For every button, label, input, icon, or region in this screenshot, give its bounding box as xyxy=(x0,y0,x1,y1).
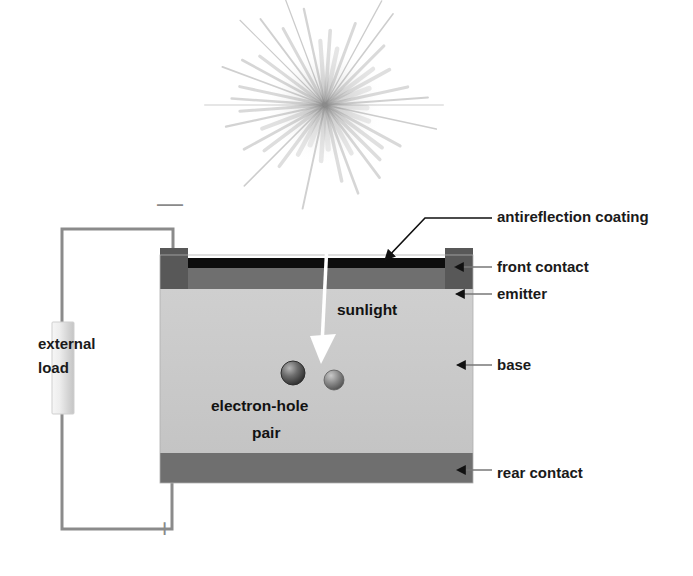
layer-antireflection-coating xyxy=(183,258,451,268)
terminal-negative-sign: — xyxy=(157,188,183,218)
layer-rear-contact xyxy=(160,453,473,483)
label-pair: pair xyxy=(252,424,280,441)
solar-cell-diagram: antireflection coating front contact emi… xyxy=(0,0,693,576)
label-rear-contact: rear contact xyxy=(497,464,583,481)
front-contact-left xyxy=(160,248,188,289)
label-external-load-line1: external xyxy=(38,335,96,352)
hole-sphere xyxy=(324,370,344,390)
wire-top xyxy=(62,229,173,324)
label-sunlight: sunlight xyxy=(337,301,397,318)
label-antireflection-coating: antireflection coating xyxy=(497,208,649,225)
layer-base xyxy=(160,289,473,453)
sunlight-starburst xyxy=(205,0,443,209)
terminal-positive-sign: + xyxy=(157,513,172,543)
label-external-load-line2: load xyxy=(38,359,69,376)
label-base: base xyxy=(497,356,531,373)
label-front-contact: front contact xyxy=(497,258,589,275)
solar-cell-stack xyxy=(160,248,473,483)
wire-bottom xyxy=(62,412,172,529)
leader-antireflection-coating xyxy=(385,218,492,260)
layer-emitter xyxy=(160,267,473,289)
external-circuit xyxy=(52,229,173,529)
label-emitter: emitter xyxy=(497,285,547,302)
front-contact-right xyxy=(445,248,473,289)
label-electron-hole: electron-hole xyxy=(211,397,309,414)
figure-canvas: antireflection coating front contact emi… xyxy=(0,0,693,576)
electron-sphere xyxy=(281,361,305,385)
